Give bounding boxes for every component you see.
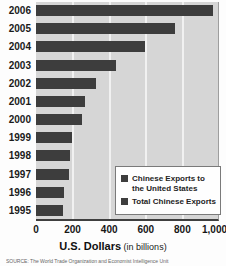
- export-bar: [36, 114, 82, 125]
- bar-row: 2003: [0, 57, 219, 74]
- x-tick-label: 600: [137, 224, 154, 235]
- bar-track: [36, 132, 219, 143]
- year-label: 2005: [0, 23, 36, 34]
- bar-track: [36, 5, 219, 16]
- export-bar: [36, 23, 175, 34]
- legend-swatch-icon: [121, 175, 128, 182]
- legend-swatch-icon: [121, 198, 128, 205]
- export-bar: [36, 150, 70, 161]
- legend-item: Total Chinese Exports: [121, 197, 217, 207]
- bar-row: 2006: [0, 2, 219, 19]
- bar-row: 2005: [0, 20, 219, 37]
- x-tick-label: 200: [64, 224, 81, 235]
- x-axis-title-note: (in billions): [121, 242, 167, 252]
- year-label: 1998: [0, 150, 36, 161]
- export-bar: [36, 60, 116, 71]
- x-axis-ticks: 02004006008001,000: [36, 224, 219, 236]
- legend-label: Chinese Exports to the United States: [132, 174, 217, 195]
- year-label: 2001: [0, 96, 36, 107]
- bar-track: [36, 150, 219, 161]
- year-label: 2004: [0, 41, 36, 52]
- bar-row: 2000: [0, 111, 219, 128]
- bar-row: 1999: [0, 129, 219, 146]
- chart-legend: Chinese Exports to the United StatesTota…: [115, 166, 221, 215]
- year-label: 2003: [0, 60, 36, 71]
- year-label: 1995: [0, 205, 36, 216]
- export-bar: [36, 187, 64, 198]
- export-bar: [36, 132, 72, 143]
- year-label: 1997: [0, 169, 36, 180]
- bar-track: [36, 114, 219, 125]
- x-tick-label: 0: [33, 224, 39, 235]
- export-bar: [36, 41, 145, 52]
- bar-row: 1998: [0, 147, 219, 164]
- export-bar: [36, 5, 213, 16]
- x-tick-label: 400: [101, 224, 118, 235]
- bar-track: [36, 41, 219, 52]
- x-axis-title: U.S. Dollars (in billions): [0, 240, 226, 252]
- bar-row: 2001: [0, 93, 219, 110]
- year-label: 1999: [0, 132, 36, 143]
- legend-item: Chinese Exports to the United States: [121, 174, 217, 195]
- legend-label: Total Chinese Exports: [132, 197, 216, 207]
- source-citation: SOURCE: The World Trade Organization and…: [6, 258, 220, 264]
- bar-row: 2004: [0, 38, 219, 55]
- export-bar-chart-figure: 2006200520042003200220012000199919981997…: [0, 0, 226, 266]
- year-label: 2006: [0, 5, 36, 16]
- export-bar: [36, 205, 63, 216]
- year-label: 2002: [0, 78, 36, 89]
- bar-track: [36, 23, 219, 34]
- bar-row: 2002: [0, 75, 219, 92]
- bar-track: [36, 96, 219, 107]
- export-bar: [36, 78, 96, 89]
- year-label: 2000: [0, 114, 36, 125]
- chart-area: 2006200520042003200220012000199919981997…: [0, 0, 226, 222]
- x-tick-label: 1,000: [202, 224, 226, 235]
- x-axis-title-main: U.S. Dollars: [59, 240, 121, 252]
- export-bar: [36, 169, 69, 180]
- export-bar: [36, 96, 85, 107]
- x-tick-label: 800: [174, 224, 191, 235]
- year-label: 1996: [0, 187, 36, 198]
- bar-track: [36, 60, 219, 71]
- bar-track: [36, 78, 219, 89]
